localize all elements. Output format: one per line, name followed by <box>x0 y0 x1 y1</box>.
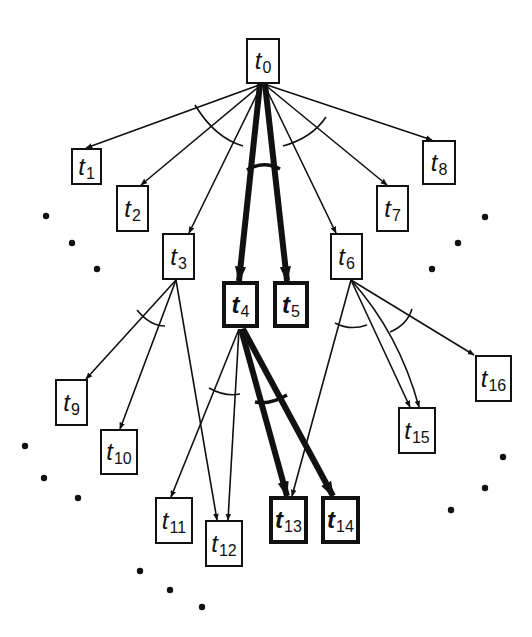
node-subscript: 1 <box>86 165 95 183</box>
node-label: t <box>162 509 169 533</box>
node-t11: t11 <box>155 497 193 544</box>
node-label: t <box>431 151 438 175</box>
edge-t0-t5-bold <box>265 84 287 281</box>
edge-t0-t2 <box>141 84 262 185</box>
ellipsis-dot <box>22 443 28 449</box>
ellipsis-dot <box>41 475 47 481</box>
node-t9: t9 <box>55 379 88 426</box>
node-label: t <box>384 197 391 221</box>
node-subscript: 7 <box>392 207 401 225</box>
node-label: t <box>275 508 283 532</box>
node-subscript: 13 <box>284 518 302 536</box>
ellipsis-dot <box>500 454 506 460</box>
node-t13-highlighted: t13 <box>269 496 308 544</box>
node-t12: t12 <box>205 520 243 567</box>
node-t2: t2 <box>116 185 149 232</box>
node-subscript: 12 <box>219 542 237 560</box>
node-label: t <box>338 245 345 269</box>
node-label: t <box>78 155 85 179</box>
ellipsis-dot <box>482 485 488 491</box>
node-subscript: 0 <box>262 59 271 77</box>
node-label: t <box>106 440 113 464</box>
node-label: t <box>63 391 70 415</box>
ellipsis-dot <box>43 213 49 219</box>
edge-t3-t9 <box>86 280 176 379</box>
node-label: t <box>327 508 335 532</box>
edge-t4-t11 <box>171 329 239 497</box>
ellipsis-dot <box>167 587 173 593</box>
edge-t0-t8 <box>264 84 432 140</box>
node-t14-highlighted: t14 <box>321 496 360 544</box>
node-label: t <box>124 197 131 221</box>
ellipsis-dot <box>69 240 75 246</box>
node-subscript: 9 <box>71 401 80 419</box>
edge-t4-t14-bold <box>243 329 333 496</box>
node-t5-highlighted: t5 <box>273 281 309 328</box>
node-subscript: 5 <box>291 303 300 321</box>
ellipsis-dot <box>94 266 100 272</box>
node-label: t <box>481 367 488 391</box>
node-t7: t7 <box>376 185 409 232</box>
ellipsis-dot <box>137 568 143 574</box>
node-t10: t10 <box>100 429 138 475</box>
node-subscript: 8 <box>438 161 447 179</box>
node-subscript: 10 <box>114 450 132 468</box>
node-t0: t0 <box>246 38 280 84</box>
ellipsis-dot <box>455 240 461 246</box>
ellipsis-dot <box>199 604 205 610</box>
node-subscript: 15 <box>412 429 430 447</box>
node-label: t <box>255 49 262 73</box>
node-label: t <box>211 532 218 556</box>
edge-t0-t7 <box>264 84 387 185</box>
node-label: t <box>282 293 290 317</box>
node-subscript: 4 <box>241 303 250 321</box>
node-subscript: 16 <box>488 377 506 395</box>
node-subscript: 2 <box>132 207 141 225</box>
and-arc-t0-right <box>283 117 326 146</box>
edge-t6-t15 <box>351 280 419 407</box>
node-label: t <box>170 245 177 269</box>
edge-t0-t4-bold <box>239 84 260 281</box>
edge-t6-t16 <box>351 280 474 355</box>
node-label: t <box>404 419 411 443</box>
edge-t6-t15 <box>351 280 410 407</box>
node-subscript: 11 <box>170 519 187 537</box>
node-t3: t3 <box>162 233 195 280</box>
ellipsis-dot <box>448 507 454 513</box>
node-subscript: 14 <box>336 518 354 536</box>
ellipsis-dot <box>75 495 81 501</box>
edge-t4-t13-bold <box>241 329 287 496</box>
node-t15: t15 <box>398 407 436 454</box>
node-t16: t16 <box>475 355 512 402</box>
node-t6: t6 <box>330 233 363 280</box>
and-arc-t6-right <box>390 309 412 332</box>
and-arc-t0-left <box>195 105 243 146</box>
edge-t4-t12 <box>228 329 239 520</box>
task-tree-diagram <box>0 0 532 637</box>
ellipsis-dot <box>482 214 488 220</box>
node-t4-highlighted: t4 <box>222 281 259 328</box>
node-subscript: 6 <box>346 255 355 273</box>
edge-t3-t10 <box>120 280 176 429</box>
ellipsis-dot <box>429 266 435 272</box>
node-t1: t1 <box>71 148 102 185</box>
node-subscript: 3 <box>178 255 187 273</box>
node-t8: t8 <box>422 140 456 185</box>
node-label: t <box>232 293 240 317</box>
